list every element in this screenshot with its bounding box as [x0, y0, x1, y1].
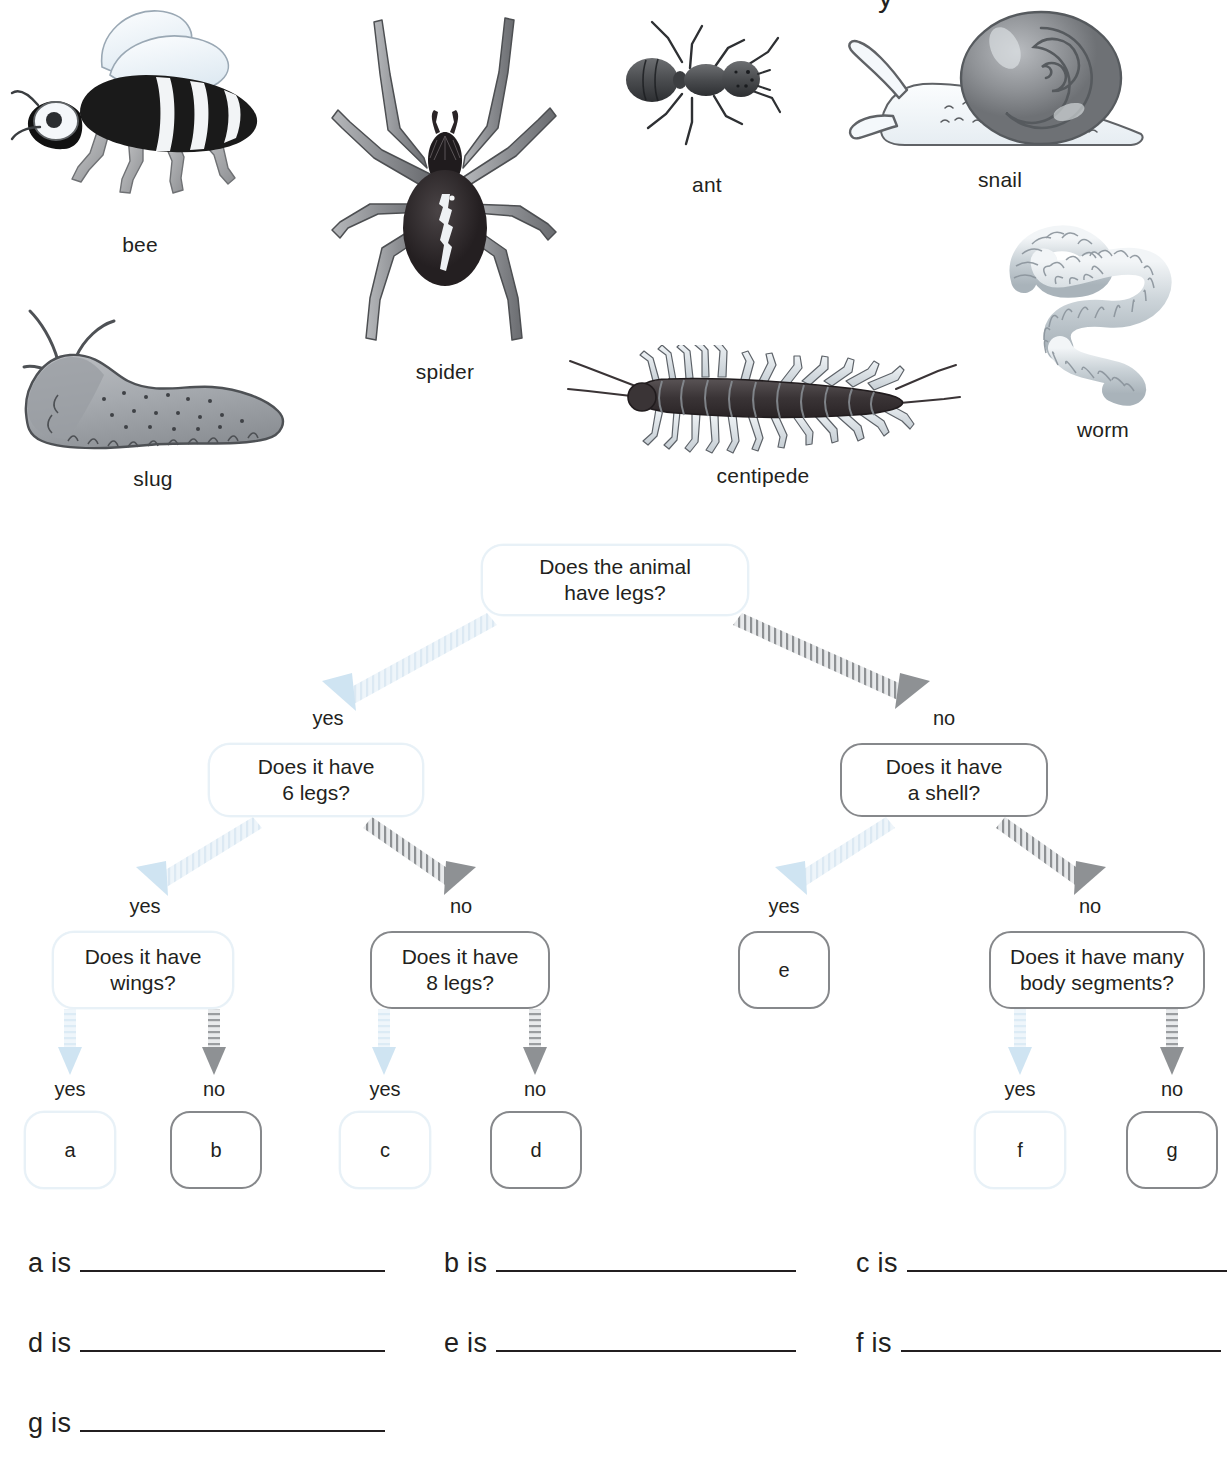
- node-leaf-f-text: f: [1017, 1138, 1023, 1162]
- specimen-label-worm: worm: [988, 418, 1218, 442]
- node-wings-text: Does it have wings?: [85, 944, 202, 995]
- node-root-text: Does the animal have legs?: [539, 554, 691, 605]
- node-eight-legs-text: Does it have 8 legs?: [402, 944, 519, 995]
- node-leaf-b[interactable]: b: [170, 1111, 262, 1189]
- worm-illustration: [988, 222, 1218, 422]
- edge-shell-yes: [775, 817, 895, 895]
- specimen-label-slug: slug: [8, 467, 298, 491]
- edge-label-eight-no: no: [486, 1078, 584, 1101]
- answer-blank-b[interactable]: [496, 1255, 796, 1272]
- answer-blank-d[interactable]: [80, 1335, 385, 1352]
- ant-illustration: [622, 10, 792, 160]
- answer-row-f: f is: [856, 1328, 1221, 1359]
- decision-tree: Does the animal have legs? Does it have …: [0, 515, 1229, 1230]
- snail-illustration: [845, 8, 1155, 173]
- node-leaf-g-text: g: [1166, 1138, 1177, 1162]
- edge-label-six-no: no: [412, 895, 510, 918]
- answer-section: a is b is c is d is e is f is g is: [0, 1232, 1229, 1470]
- specimen-label-spider: spider: [330, 360, 560, 384]
- specimen-slug: slug: [8, 295, 298, 505]
- answer-key-a: a is: [28, 1248, 71, 1279]
- node-leaf-a-text: a: [64, 1138, 75, 1162]
- node-six-legs[interactable]: Does it have 6 legs?: [208, 743, 424, 817]
- specimen-label-bee: bee: [10, 233, 270, 257]
- node-leaf-b-text: b: [210, 1138, 221, 1162]
- edge-root-yes: [322, 613, 497, 711]
- edge-label-wings-no: no: [165, 1078, 263, 1101]
- edge-label-shell-yes: yes: [735, 895, 833, 918]
- node-leaf-g[interactable]: g: [1126, 1111, 1218, 1189]
- node-body-segments[interactable]: Does it have many body segments?: [989, 931, 1205, 1009]
- specimen-label-centipede: centipede: [558, 464, 968, 488]
- edge-label-seg-yes: yes: [971, 1078, 1069, 1101]
- edge-six-no: [363, 817, 476, 895]
- node-eight-legs[interactable]: Does it have 8 legs?: [370, 931, 550, 1009]
- edge-wings-no: [202, 1009, 226, 1075]
- specimen-centipede: centipede: [558, 345, 968, 495]
- specimen-worm: worm: [988, 222, 1218, 452]
- node-leaf-e-text: e: [778, 958, 789, 982]
- answer-row-a: a is: [28, 1248, 385, 1279]
- answer-row-c: c is: [856, 1248, 1227, 1279]
- specimen-bee: bee: [10, 5, 270, 260]
- specimen-spider: spider: [330, 8, 560, 398]
- spider-illustration: [330, 8, 560, 348]
- answer-row-g: g is: [28, 1408, 385, 1439]
- edge-label-seg-no: no: [1123, 1078, 1221, 1101]
- answer-row-d: d is: [28, 1328, 385, 1359]
- specimen-snail: snail: [845, 8, 1155, 208]
- edge-root-no: [733, 613, 930, 709]
- answer-blank-g[interactable]: [80, 1415, 385, 1432]
- bee-illustration: [10, 5, 270, 220]
- answer-blank-c[interactable]: [907, 1255, 1227, 1272]
- edge-label-six-yes: yes: [96, 895, 194, 918]
- edge-shell-no: [996, 817, 1106, 895]
- edge-label-eight-yes: yes: [336, 1078, 434, 1101]
- node-leaf-a[interactable]: a: [24, 1111, 116, 1189]
- node-leaf-c-text: c: [380, 1138, 390, 1162]
- answer-key-f: f is: [856, 1328, 892, 1359]
- answer-row-e: e is: [444, 1328, 796, 1359]
- answer-key-c: c is: [856, 1248, 898, 1279]
- node-leaf-d[interactable]: d: [490, 1111, 582, 1189]
- node-body-segments-text: Does it have many body segments?: [1010, 944, 1184, 995]
- node-leaf-f[interactable]: f: [974, 1111, 1066, 1189]
- answer-key-d: d is: [28, 1328, 71, 1359]
- node-shell[interactable]: Does it have a shell?: [840, 743, 1048, 817]
- answer-blank-f[interactable]: [901, 1335, 1221, 1352]
- edge-wings-yes: [58, 1009, 82, 1075]
- specimen-label-snail: snail: [845, 168, 1155, 192]
- edge-label-shell-no: no: [1041, 895, 1139, 918]
- node-leaf-d-text: d: [530, 1138, 541, 1162]
- node-wings[interactable]: Does it have wings?: [52, 931, 234, 1009]
- edge-six-yes: [136, 817, 262, 896]
- node-six-legs-text: Does it have 6 legs?: [258, 754, 375, 805]
- answer-key-g: g is: [28, 1408, 71, 1439]
- node-leaf-e[interactable]: e: [738, 931, 830, 1009]
- edge-eight-no: [523, 1009, 547, 1075]
- edge-seg-no: [1160, 1009, 1184, 1075]
- node-root[interactable]: Does the animal have legs?: [481, 544, 749, 616]
- answer-key-b: b is: [444, 1248, 487, 1279]
- node-shell-text: Does it have a shell?: [886, 754, 1003, 805]
- edge-label-root-no: no: [895, 707, 993, 730]
- answer-blank-a[interactable]: [80, 1255, 385, 1272]
- edge-label-wings-yes: yes: [21, 1078, 119, 1101]
- specimen-label-ant: ant: [622, 173, 792, 197]
- slug-illustration: [8, 295, 298, 475]
- edge-seg-yes: [1008, 1009, 1032, 1075]
- edge-label-root-yes: yes: [279, 707, 377, 730]
- specimen-ant: ant: [622, 10, 792, 205]
- answer-blank-e[interactable]: [496, 1335, 796, 1352]
- answer-key-e: e is: [444, 1328, 487, 1359]
- answer-row-b: b is: [444, 1248, 796, 1279]
- node-leaf-c[interactable]: c: [339, 1111, 431, 1189]
- specimen-gallery: y: [0, 0, 1229, 515]
- centipede-illustration: [558, 345, 968, 455]
- edge-eight-yes: [372, 1009, 396, 1075]
